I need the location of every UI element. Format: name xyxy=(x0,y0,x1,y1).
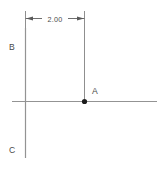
dimension-arrowhead-left-icon xyxy=(26,17,33,21)
point-a-label: A xyxy=(92,86,98,96)
point-b-label: B xyxy=(9,42,15,52)
point-c-label: C xyxy=(9,145,15,155)
point-a-marker xyxy=(82,99,87,104)
dimension-value-label: 2.00 xyxy=(48,15,63,24)
diagram-canvas: 2.00 A B C xyxy=(0,0,162,169)
cad-dimension-diagram: 2.00 A B C xyxy=(0,0,162,169)
dimension-arrowhead-right-icon xyxy=(77,17,84,21)
